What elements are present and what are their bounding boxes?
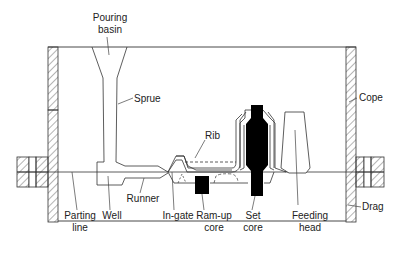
label-in-gate: In-gate [160,210,196,222]
label-parting-line2: line [60,222,100,234]
label-ram-up-core: Ram-up core [194,210,234,234]
set-core-shape [246,105,268,196]
ram-up-core-shape [195,176,209,194]
right-flask-wall [346,47,384,222]
label-parting-line: Parting line [60,210,100,234]
label-rib: Rib [205,130,220,142]
label-cope: Cope [359,92,383,104]
ram-up-left-dash [178,174,186,183]
label-pouring-line1: Pouring [90,12,130,24]
label-feeding-line1: Feeding [288,210,332,222]
label-feeding-line2: head [288,222,332,234]
label-pouring-line2: basin [90,24,130,36]
gating-system [92,47,168,185]
leader-lines [72,37,361,210]
label-set-core: Set core [238,210,268,234]
label-runner: Runner [126,193,160,205]
label-parting-line1: Parting [60,210,100,222]
label-drag: Drag [362,201,384,213]
ram-up-right-dash [214,174,238,183]
label-feeding-head: Feeding head [288,210,332,234]
label-set-core-line1: Set [238,210,268,222]
label-well: Well [100,210,124,222]
label-ram-up-line1: Ram-up [194,210,234,222]
label-sprue: Sprue [134,93,161,105]
left-flask-wall [17,47,58,222]
label-set-core-line2: core [238,222,268,234]
label-ram-up-line2: core [194,222,234,234]
label-pouring-basin: Pouring basin [90,12,130,36]
